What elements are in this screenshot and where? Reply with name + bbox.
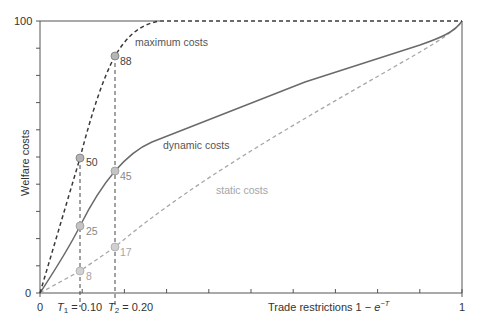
marker-max-t1	[76, 154, 84, 162]
value-label-8: 8	[86, 270, 92, 282]
marker-max-t2	[111, 52, 119, 60]
y-axis-label: Welfare costs	[19, 129, 31, 196]
y-tick-100: 100	[14, 15, 32, 27]
welfare-costs-chart: 50 88 25 45 8 17 maximum costs dynamic c…	[0, 0, 481, 326]
marker-static-t2	[111, 243, 119, 251]
marker-static-t1	[76, 267, 84, 275]
t1-annotation: T1 = 0.10	[57, 301, 102, 315]
maximum-costs-curve	[40, 21, 462, 293]
y-ticks	[36, 21, 40, 293]
label-static-costs: static costs	[216, 184, 268, 196]
value-label-25: 25	[86, 225, 98, 237]
x-axis-label: Trade restrictions 1 − e−T	[268, 299, 391, 313]
dynamic-costs-curve	[40, 21, 462, 293]
x-tick-1: 1	[459, 301, 465, 313]
static-costs-curve	[40, 21, 462, 293]
x-tick-0: 0	[37, 301, 43, 313]
label-maximum-costs: maximum costs	[135, 36, 208, 48]
axes	[40, 21, 462, 293]
y-tick-0: 0	[25, 287, 31, 299]
value-label-88: 88	[120, 55, 132, 67]
value-label-45: 45	[120, 170, 132, 182]
label-dynamic-costs: dynamic costs	[163, 139, 230, 151]
marker-dyn-t1	[76, 222, 84, 230]
value-label-17: 17	[120, 246, 132, 258]
value-label-50: 50	[86, 156, 98, 168]
marker-dyn-t2	[111, 167, 119, 175]
